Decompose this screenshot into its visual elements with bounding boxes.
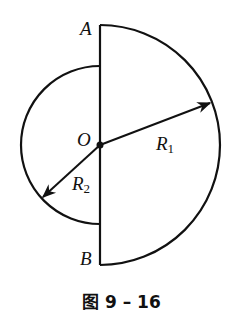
center-point-o (97, 142, 104, 149)
figure-caption: 图 9 – 16 (82, 292, 161, 312)
radius-arrow-r1 (100, 103, 210, 145)
figure-diagram: A B O R1 R2 图 9 – 16 (0, 0, 239, 319)
label-r1: R1 (155, 133, 174, 156)
label-a: A (78, 18, 92, 39)
label-r2: R2 (71, 173, 90, 196)
label-b: B (80, 248, 92, 269)
label-o: O (77, 129, 91, 150)
